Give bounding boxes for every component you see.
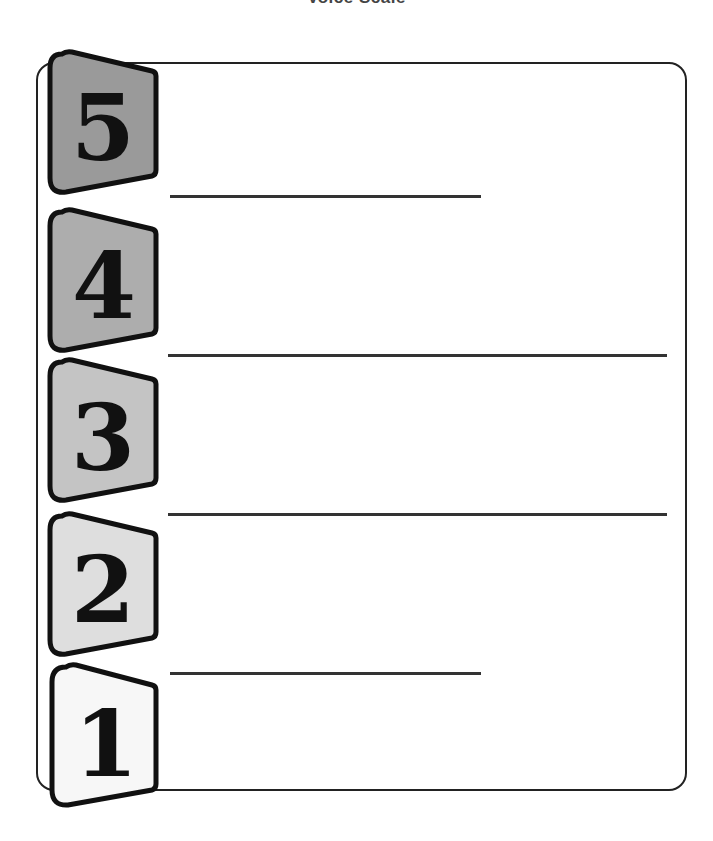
level-number-3: 3: [71, 384, 135, 492]
level-number-2: 2: [71, 536, 135, 644]
level-tab-3[interactable]: 3: [50, 360, 156, 500]
level-number-1: 1: [74, 690, 138, 798]
level-tab-5[interactable]: 5: [50, 52, 156, 192]
level-number-5: 5: [71, 74, 135, 182]
level-number-4: 4: [72, 232, 136, 340]
level-tabs: 5 4 3 2 1: [0, 0, 713, 841]
level-tab-2[interactable]: 2: [50, 514, 156, 654]
level-tab-1[interactable]: 1: [52, 665, 156, 805]
level-tab-4[interactable]: 4: [50, 210, 156, 350]
